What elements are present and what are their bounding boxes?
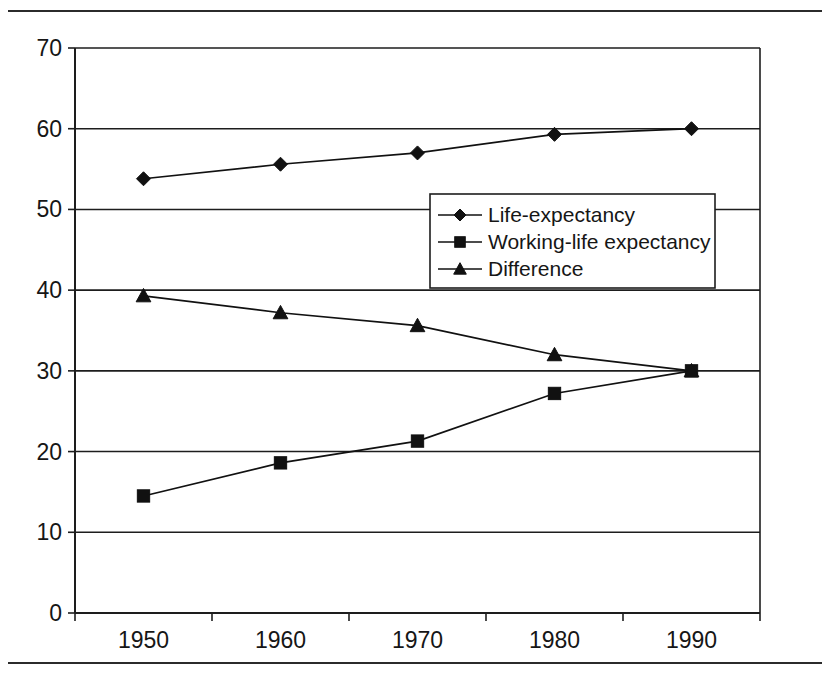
data-point-1950 (137, 490, 149, 502)
series-life-expectancy (137, 122, 699, 186)
x-tick-label-1970: 1970 (392, 627, 443, 653)
x-tick-label-1960: 1960 (255, 627, 306, 653)
series-working-life-expectancy (137, 365, 697, 502)
y-axis-tick-labels: 010203040506070 (36, 35, 62, 626)
series-line (144, 296, 692, 371)
y-tick-label-50: 50 (36, 196, 62, 222)
x-tick-label-1980: 1980 (529, 627, 580, 653)
data-point-1950 (137, 172, 151, 186)
x-axis-tick-labels: 19501960197019801990 (118, 627, 717, 653)
data-point-1970 (411, 146, 425, 160)
y-tick-label-0: 0 (49, 600, 62, 626)
series-difference (136, 288, 699, 376)
legend-marker-square (455, 237, 466, 248)
x-axis-ticks (75, 613, 760, 621)
x-tick-label-1950: 1950 (118, 627, 169, 653)
y-tick-label-70: 70 (36, 35, 62, 61)
y-tick-label-20: 20 (36, 439, 62, 465)
figure: 010203040506070 19501960197019801990 Lif… (0, 0, 830, 690)
data-point-1990 (685, 122, 699, 136)
legend-label: Difference (488, 257, 583, 280)
y-tick-label-60: 60 (36, 116, 62, 142)
data-point-1960 (274, 457, 286, 469)
y-tick-label-30: 30 (36, 358, 62, 384)
line-chart: 010203040506070 19501960197019801990 Lif… (0, 0, 830, 690)
y-axis-ticks (68, 48, 75, 613)
legend-label: Life-expectancy (488, 203, 636, 226)
data-series (136, 122, 699, 502)
series-line (144, 371, 692, 496)
y-tick-label-40: 40 (36, 277, 62, 303)
data-point-1980 (548, 387, 560, 399)
x-tick-label-1990: 1990 (666, 627, 717, 653)
data-point-1970 (411, 435, 423, 447)
chart-legend: Life-expectancyWorking-life expectancyDi… (430, 194, 715, 288)
data-point-1960 (274, 157, 288, 171)
legend-label: Working-life expectancy (488, 230, 711, 253)
y-tick-label-10: 10 (36, 519, 62, 545)
